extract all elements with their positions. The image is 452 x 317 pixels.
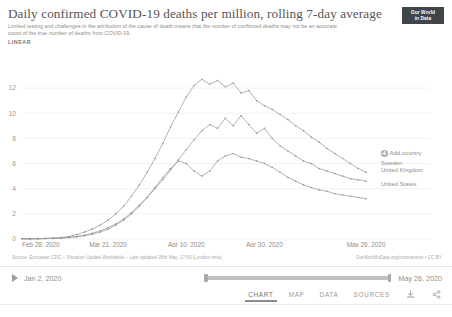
source-text: Source: European CDC – Situation Update … xyxy=(12,255,222,260)
share-icon[interactable] xyxy=(431,289,442,304)
tab-data[interactable]: DATA xyxy=(320,291,339,302)
timeline-control[interactable]: Jan 2, 2020 May 26, 2020 xyxy=(12,270,442,286)
timeline-end-date: May 26, 2020 xyxy=(398,274,442,283)
legend-entry-united-kingdom[interactable]: United Kingdom xyxy=(381,167,451,174)
y-gridlines xyxy=(22,88,430,239)
series-markers xyxy=(21,115,367,240)
tab-map[interactable]: MAP xyxy=(289,291,305,302)
series-lines xyxy=(21,79,367,240)
y-tick-label: 4 xyxy=(12,185,16,192)
tab-chart[interactable]: CHART xyxy=(248,291,273,302)
x-axis-tick-labels: Feb 28, 2020Mar 21, 2020Apr 10, 2020Apr … xyxy=(22,241,386,248)
y-tick-label: 2 xyxy=(12,210,16,217)
series-line xyxy=(22,79,366,238)
axis-scale-toggle[interactable]: LINEAR xyxy=(8,39,444,45)
y-tick-label: 0 xyxy=(12,235,16,242)
owid-chart-widget: Daily confirmed COVID-19 deaths per mill… xyxy=(0,0,452,317)
series-markers xyxy=(21,79,367,240)
chart-header: Daily confirmed COVID-19 deaths per mill… xyxy=(8,6,444,54)
timeline-handle-start[interactable] xyxy=(204,274,208,282)
timeline-handle-end[interactable] xyxy=(388,274,392,282)
view-tabs: CHART MAP DATA SOURCES xyxy=(0,288,442,304)
owid-logo[interactable]: Our World in Data xyxy=(402,7,444,24)
download-icon[interactable] xyxy=(405,289,416,304)
x-tick-label: Apr 30, 2020 xyxy=(246,241,283,248)
series-line xyxy=(22,153,366,238)
timeline-slider-fill xyxy=(204,276,391,281)
chart-title: Daily confirmed COVID-19 deaths per mill… xyxy=(8,6,444,21)
x-tick-label: Feb 28, 2020 xyxy=(22,241,60,248)
x-tick-label: May 26, 2020 xyxy=(347,241,386,248)
source-row: Source: European CDC – Situation Update … xyxy=(12,252,442,262)
legend-entry-sweden[interactable]: Sweden xyxy=(381,160,451,167)
x-tick-label: Mar 21, 2020 xyxy=(89,241,127,248)
series-sweden[interactable] xyxy=(21,115,367,240)
owid-logo-line2: in Data xyxy=(402,16,444,22)
attribution-text[interactable]: OurWorldInData.org/coronavirus • CC BY xyxy=(356,255,442,260)
add-country-button[interactable]: Add country xyxy=(381,150,451,157)
tab-sources[interactable]: SOURCES xyxy=(353,291,390,302)
bottom-rule xyxy=(0,304,452,305)
control-bar-divider xyxy=(0,266,452,267)
series-line xyxy=(22,116,366,239)
timeline-start-date: Jan 2, 2020 xyxy=(24,274,62,283)
x-tick-label: Apr 10, 2020 xyxy=(168,241,205,248)
play-icon[interactable] xyxy=(12,274,18,282)
plus-circle-icon xyxy=(381,150,388,157)
chart-subtitle: Limited testing and challenges in the at… xyxy=(8,23,340,36)
y-tick-label: 12 xyxy=(9,84,17,91)
y-tick-label: 6 xyxy=(12,160,16,167)
y-axis-tick-labels: 024681012 xyxy=(9,84,17,242)
add-country-label: Add country xyxy=(390,150,422,156)
y-tick-label: 8 xyxy=(12,135,16,142)
chart-legend: Add country Sweden United Kingdom United… xyxy=(381,150,451,188)
legend-entry-united-states[interactable]: United States xyxy=(381,181,451,188)
timeline-slider[interactable] xyxy=(69,276,392,281)
y-tick-label: 10 xyxy=(9,110,17,117)
series-united-kingdom[interactable] xyxy=(21,79,367,240)
